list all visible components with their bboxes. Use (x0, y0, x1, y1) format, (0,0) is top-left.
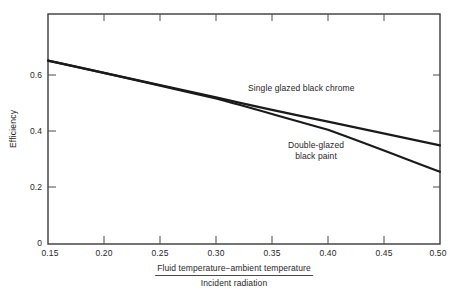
x-tick-label-0.30: 0.30 (208, 248, 225, 258)
x-tick-label-0.45: 0.45 (376, 248, 393, 258)
x-tick-label-0.35: 0.35 (264, 248, 281, 258)
x-axis-title-denominator: Incident radiation (155, 276, 313, 289)
chart-plot-area (0, 0, 462, 293)
annotation-double-line2: black paint (288, 151, 344, 162)
y-tick-label-0.4: 0.4 (20, 126, 42, 136)
x-tick-label-0.25: 0.25 (152, 248, 169, 258)
annotation-single-glazed-black-chrome: Single glazed black chrome (248, 83, 355, 94)
annotation-double-line1: Double-glazed (288, 140, 344, 151)
y-axis-title: Efficiency (8, 110, 18, 148)
x-tick-label-0.40: 0.40 (320, 248, 337, 258)
x-axis-title: Fluid temperature−ambient temperature In… (155, 262, 313, 289)
plot-frame (48, 14, 440, 244)
x-axis-title-numerator: Fluid temperature−ambient temperature (155, 262, 313, 276)
y-tick-label-0.2: 0.2 (20, 182, 42, 192)
annotation-double-glazed-black-paint: Double-glazed black paint (288, 140, 344, 162)
x-tick-label-0.20: 0.20 (96, 248, 113, 258)
x-tick-label-0.50: 0.50 (430, 248, 447, 258)
y-tick-label-0: 0 (20, 238, 42, 248)
x-tick-label-0.15: 0.15 (42, 248, 59, 258)
y-tick-label-0.6: 0.6 (20, 70, 42, 80)
chart-figure: 0.6 0.4 0.2 0 0.15 0.20 0.25 0.30 0.35 0… (0, 0, 462, 293)
